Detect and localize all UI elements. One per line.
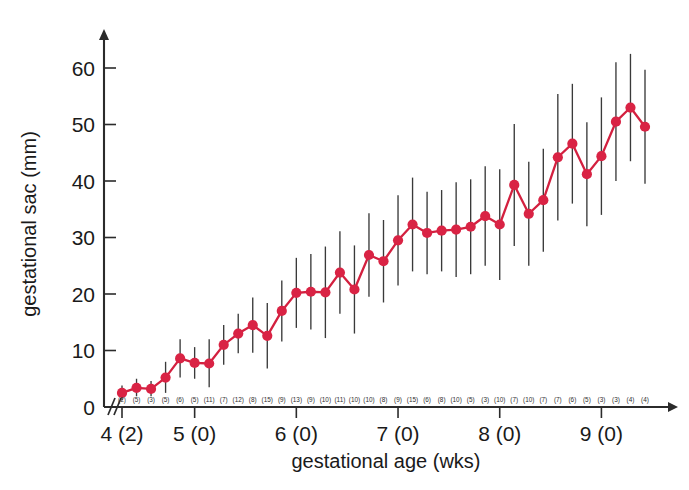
- data-point-marker: [509, 180, 519, 190]
- x-axis-arrowhead: [668, 402, 678, 412]
- sample-count-labels: (2)(5)(3)(5)(6)(5)(11)(7)(12)(8)(15)(9)(…: [118, 396, 649, 404]
- sample-count-label: (15): [407, 396, 418, 404]
- data-point-marker: [480, 211, 490, 221]
- sample-count-label: (7): [539, 396, 547, 404]
- y-axis-ticks: 0102030405060: [72, 57, 116, 419]
- data-point-marker: [204, 358, 214, 368]
- x-axis-ticks: 4 (2)5 (0)6 (0)7 (0)8 (0)9 (0): [100, 407, 623, 445]
- sample-count-label: (11): [204, 396, 215, 404]
- sample-count-label: (8): [249, 396, 257, 404]
- y-tick-label-30: 30: [72, 226, 95, 249]
- data-point-marker: [393, 235, 403, 245]
- data-point-marker: [538, 195, 548, 205]
- data-point-marker: [291, 288, 301, 298]
- sample-count-label: (3): [598, 396, 606, 404]
- data-point-marker: [219, 340, 229, 350]
- data-point-marker: [320, 287, 330, 297]
- sample-count-label: (8): [438, 396, 446, 404]
- sample-count-label: (5): [162, 396, 170, 404]
- sample-count-label: (10): [320, 396, 331, 404]
- data-point-marker: [248, 320, 258, 330]
- y-tick-label-10: 10: [72, 339, 95, 362]
- sample-count-label: (10): [494, 396, 505, 404]
- sample-count-label: (10): [349, 396, 360, 404]
- sample-count-label: (5): [583, 396, 591, 404]
- y-tick-label-20: 20: [72, 283, 95, 306]
- x-axis-title: gestational age (wks): [292, 450, 481, 472]
- data-point-marker: [407, 219, 417, 229]
- y-tick-label-0: 0: [83, 396, 95, 419]
- sample-count-label: (11): [334, 396, 345, 404]
- sample-count-label: (6): [568, 396, 576, 404]
- y-tick-label-50: 50: [72, 113, 95, 136]
- sample-count-label: (7): [220, 396, 228, 404]
- sample-count-label: (13): [291, 396, 302, 404]
- sample-count-label: (3): [612, 396, 620, 404]
- gestational-sac-growth-chart: 0102030405060 4 (2)5 (0)6 (0)7 (0)8 (0)9…: [0, 0, 689, 490]
- x-tick-label-3: 7 (0): [376, 422, 419, 445]
- data-point-marker: [553, 152, 563, 162]
- data-point-marker: [640, 122, 650, 132]
- sample-count-label: (6): [423, 396, 431, 404]
- y-tick-label-40: 40: [72, 170, 95, 193]
- data-point-marker: [451, 224, 461, 234]
- y-axis-arrowhead: [99, 29, 109, 40]
- y-tick-label-60: 60: [72, 57, 95, 80]
- sample-count-label: (4): [627, 396, 635, 404]
- data-point-marker: [596, 151, 606, 161]
- sample-count-label: (6): [176, 396, 184, 404]
- sample-count-label: (8): [380, 396, 388, 404]
- x-tick-label-0: 4 (2): [100, 422, 143, 445]
- data-point-marker: [625, 102, 635, 112]
- data-point-marker: [364, 250, 374, 260]
- sample-count-label: (2): [118, 396, 126, 404]
- data-point-marker: [233, 328, 243, 338]
- data-point-marker: [582, 169, 592, 179]
- sample-count-label: (9): [307, 396, 315, 404]
- data-point-marker: [378, 256, 388, 266]
- data-point-marker: [262, 331, 272, 341]
- sample-count-label: (10): [363, 396, 374, 404]
- data-point-marker: [437, 226, 447, 236]
- sample-count-label: (15): [262, 396, 273, 404]
- data-point-marker: [349, 284, 359, 294]
- data-point-marker: [306, 287, 316, 297]
- sample-count-label: (4): [641, 396, 649, 404]
- x-tick-label-1: 5 (0): [173, 422, 216, 445]
- chart-figure: 0102030405060 4 (2)5 (0)6 (0)7 (0)8 (0)9…: [0, 0, 689, 490]
- sample-count-label: (7): [554, 396, 562, 404]
- sample-count-label: (9): [394, 396, 402, 404]
- data-point-marker: [146, 384, 156, 394]
- data-point-marker: [277, 306, 287, 316]
- y-axis-title: gestational sac (mm): [18, 131, 40, 317]
- data-point-marker: [567, 139, 577, 149]
- sample-count-label: (5): [467, 396, 475, 404]
- sample-count-label: (5): [191, 396, 199, 404]
- data-point-marker: [190, 358, 200, 368]
- x-tick-label-2: 6 (0): [275, 422, 318, 445]
- data-point-marker: [495, 219, 505, 229]
- sample-count-label: (7): [510, 396, 518, 404]
- error-bars-group: [122, 54, 645, 400]
- data-point-marker: [611, 117, 621, 127]
- sample-count-label: (12): [233, 396, 244, 404]
- sample-count-label: (9): [278, 396, 286, 404]
- x-tick-label-5: 9 (0): [580, 422, 623, 445]
- data-point-marker: [335, 267, 345, 277]
- sample-count-label: (3): [481, 396, 489, 404]
- sample-count-label: (10): [450, 396, 461, 404]
- data-point-marker: [175, 353, 185, 363]
- sample-count-label: (10): [523, 396, 534, 404]
- data-point-marker: [466, 222, 476, 232]
- data-point-marker: [131, 383, 141, 393]
- sample-count-label: (5): [133, 396, 141, 404]
- data-point-marker: [422, 228, 432, 238]
- x-tick-label-4: 8 (0): [478, 422, 521, 445]
- data-point-marker: [160, 373, 170, 383]
- data-point-marker: [524, 209, 534, 219]
- axes-group: [99, 29, 678, 415]
- sample-count-label: (3): [147, 396, 155, 404]
